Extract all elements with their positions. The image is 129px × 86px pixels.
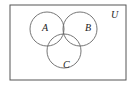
set-b-label: B: [85, 22, 91, 33]
universe-label: U: [111, 9, 119, 20]
set-c-label: C: [63, 59, 70, 70]
venn-diagram: U A B C: [0, 0, 129, 86]
set-b-circle: [63, 12, 97, 46]
set-a-label: A: [41, 22, 49, 33]
